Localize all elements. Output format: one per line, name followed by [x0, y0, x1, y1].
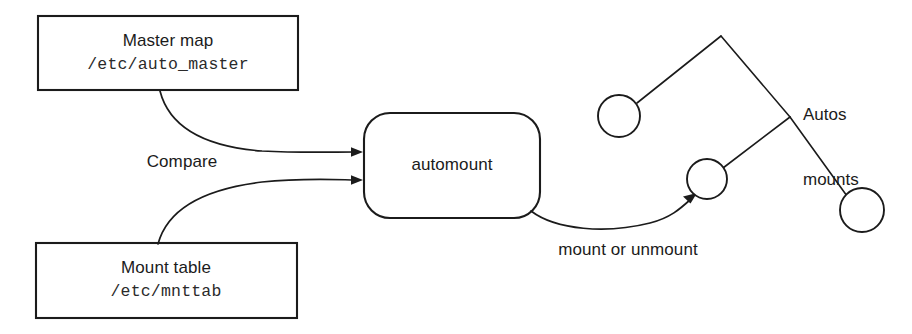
mount-table-box: [36, 243, 297, 318]
tree-branch-apex-to-junction: [721, 36, 790, 117]
compare-arrow-from-master-map: [160, 91, 356, 152]
tree-node-2: [687, 159, 727, 199]
automount-label: automount: [411, 155, 492, 175]
master-map-path: /etc/auto_master: [87, 55, 249, 74]
mount-table-path: /etc/mnttab: [110, 282, 221, 301]
autos-mounts-label: Autos mounts: [803, 60, 859, 234]
mount-table-title: Mount table: [121, 258, 211, 278]
automount-diagram: Master map /etc/auto_master Mount table …: [0, 0, 912, 334]
mount-unmount-arrow: [531, 199, 691, 229]
compare-label: Compare: [147, 152, 218, 172]
compare-arrow-from-mount-table: [158, 179, 356, 244]
autos-mounts-label-line1: Autos: [803, 104, 859, 126]
compare-arrow-head-top: [351, 147, 363, 157]
master-map-title: Master map: [123, 31, 214, 51]
tree-node-1: [598, 95, 640, 137]
mount-or-unmount-label: mount or unmount: [558, 240, 698, 260]
tree-branch-junction-to-middle-node: [723, 117, 790, 168]
tree-branch-apex-to-left-node: [637, 36, 721, 103]
autos-mounts-label-line2: mounts: [803, 169, 859, 191]
master-map-box: [38, 16, 298, 90]
compare-arrow-head-bottom: [351, 175, 363, 185]
